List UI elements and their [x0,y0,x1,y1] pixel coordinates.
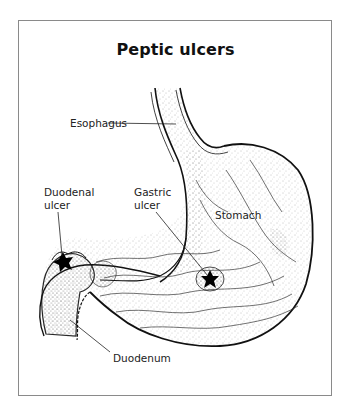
gastric-ulcer-label: Gastric ulcer [134,186,171,212]
gastric-ulcer-label-line1: Gastric [134,186,171,199]
gastric-ulcer [196,267,224,291]
duodenal-ulcer-label-line2: ulcer [44,199,94,212]
stomach-label: Stomach [215,209,261,222]
duodenum-label: Duodenum [113,352,171,365]
gastric-ulcer-label-line2: ulcer [134,199,171,212]
stomach-shape [40,144,313,346]
duodenal-ulcer-label-line1: Duodenal [44,186,94,199]
esophagus-label: Esophagus [70,117,127,130]
duodenal-ulcer-label: Duodenal ulcer [44,186,94,212]
